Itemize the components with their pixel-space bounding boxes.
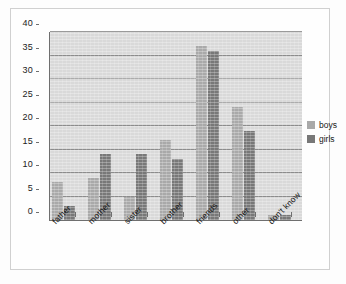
bar-group [122,32,158,220]
y-axis-tick-mark [36,142,39,143]
chart-page: 0510152025303540 fathermothersisterbroth… [0,0,346,284]
bar-group [158,32,194,220]
y-axis-tick-label: 0 [11,206,33,216]
bar-boys-other [232,107,243,220]
legend-label-boys: boys [319,120,337,130]
bar-group [50,32,86,220]
legend-item-girls: girls [307,133,337,144]
figure-frame: 0510152025303540 fathermothersisterbroth… [10,8,330,270]
x-axis-tick-mark [147,212,148,217]
x-axis-tick-mark [219,212,220,217]
y-axis-tick-mark [36,165,39,166]
legend-item-boys: boys [307,119,337,130]
y-axis-tick-label: 5 [11,183,33,193]
bar-group [194,32,230,220]
x-axis-tick-mark [255,212,256,217]
y-axis-tick-label: 25 [11,89,33,99]
y-axis-tick-label: 10 [11,159,33,169]
y-axis-tick-label: 30 [11,65,33,75]
y-axis-tick-mark [36,71,39,72]
y-axis-tick-mark [36,212,39,213]
bar-boys-friends [196,46,207,220]
y-axis-tick-mark [36,95,39,96]
legend-label-girls: girls [319,134,335,144]
x-axis-tick-mark [183,212,184,217]
bar-group [230,32,266,220]
bar-girls-friends [208,51,219,220]
y-axis-tick-label: 20 [11,112,33,122]
y-axis-tick-label: 40 [11,18,33,28]
y-axis-tick-mark [36,118,39,119]
x-axis-tick-mark [75,212,76,217]
legend-swatch-girls [307,135,315,143]
y-axis-tick-label: 15 [11,136,33,146]
x-axis-tick-mark [291,212,292,217]
y-axis-tick-label: 35 [11,42,33,52]
y-axis-tick-mark [36,48,39,49]
x-axis-tick-mark [111,212,112,217]
legend-swatch-boys [307,121,315,129]
y-axis-tick-mark [36,189,39,190]
y-axis-tick-mark [36,24,39,25]
chart-legend: boys girls [307,119,337,147]
plot-area [49,32,302,221]
bar-group [86,32,122,220]
